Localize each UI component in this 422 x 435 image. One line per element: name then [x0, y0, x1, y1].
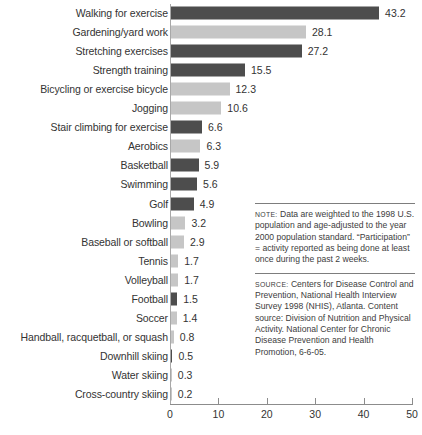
category-label: Bicycling or exercise bicycle	[40, 83, 168, 95]
source-divider	[255, 273, 415, 274]
category-label: Basketball	[121, 159, 168, 171]
bar	[170, 102, 221, 115]
horizontal-bar-chart: Walking for exercise43.2Gardening/yard w…	[0, 0, 422, 435]
bar	[170, 235, 184, 248]
bar-row: Strength training15.5	[0, 61, 422, 79]
category-label: Volleyball	[125, 274, 168, 286]
bar-value-label: 43.2	[385, 7, 405, 19]
bar	[170, 45, 302, 58]
source-text: SOURCE: Centers for Disease Control and …	[255, 279, 415, 358]
source-body: Centers for Disease Control and Preventi…	[255, 279, 414, 357]
note-divider	[255, 203, 415, 204]
bar	[170, 64, 245, 77]
x-tick-label: 10	[213, 408, 225, 420]
bar-value-label: 28.1	[312, 26, 332, 38]
bar-row: Walking for exercise43.2	[0, 4, 422, 22]
bar	[170, 178, 197, 191]
category-label: Cross-country skiing	[75, 388, 168, 400]
x-tick-label: 0	[167, 408, 173, 420]
category-label: Walking for exercise	[76, 7, 168, 19]
bar	[170, 159, 199, 172]
bar-value-label: 4.9	[200, 198, 215, 210]
bar-value-label: 5.9	[205, 159, 220, 171]
category-label: Gardening/yard work	[72, 26, 168, 38]
bar-row: Stair climbing for exercise6.6	[0, 118, 422, 136]
x-tick	[267, 398, 268, 405]
note-body: Data are weighted to the 1998 U.S. popul…	[255, 209, 414, 264]
bar-value-label: 6.6	[208, 121, 223, 133]
note-text: NOTE: Data are weighted to the 1998 U.S.…	[255, 209, 415, 266]
bar-value-label: 1.4	[183, 312, 198, 324]
bar-value-label: 10.6	[227, 102, 247, 114]
bar	[170, 254, 178, 267]
category-label: Tennis	[138, 255, 168, 267]
bar	[170, 311, 177, 324]
bar-row: Aerobics6.3	[0, 137, 422, 155]
bar-row: Jogging10.6	[0, 99, 422, 117]
category-label: Aerobics	[128, 140, 168, 152]
bar-row: Swimming5.6	[0, 175, 422, 193]
bar-value-label: 0.8	[180, 331, 195, 343]
bar-value-label: 0.2	[178, 388, 193, 400]
x-axis-line	[170, 404, 412, 405]
bar	[170, 7, 379, 20]
bar-value-label: 12.3	[236, 83, 256, 95]
bar-row: Water skiing0.3	[0, 366, 422, 384]
category-label: Water skiing	[112, 369, 168, 381]
bar-row: Basketball5.9	[0, 156, 422, 174]
bar-row: Cross-country skiing0.2	[0, 385, 422, 403]
x-tick-label: 30	[309, 408, 321, 420]
category-label: Stair climbing for exercise	[50, 121, 168, 133]
x-tick	[412, 398, 413, 405]
bar-value-label: 2.9	[190, 236, 205, 248]
notes-panel: NOTE: Data are weighted to the 1998 U.S.…	[255, 203, 415, 365]
y-axis-line	[170, 4, 171, 404]
x-tick	[364, 398, 365, 405]
bar-value-label: 1.5	[183, 293, 198, 305]
bar	[170, 83, 230, 96]
category-label: Football	[131, 293, 168, 305]
category-label: Stretching exercises	[75, 45, 168, 57]
category-label: Swimming	[120, 178, 168, 190]
category-label: Strength training	[93, 64, 168, 76]
bar	[170, 140, 200, 153]
category-label: Downhill skiing	[100, 350, 168, 362]
category-label: Soccer	[136, 312, 168, 324]
bar-value-label: 15.5	[251, 64, 271, 76]
x-tick-label: 20	[261, 408, 273, 420]
bar-value-label: 0.5	[178, 350, 193, 362]
bar	[170, 216, 185, 229]
category-label: Bowling	[132, 217, 168, 229]
x-tick-label: 50	[406, 408, 418, 420]
bar-value-label: 27.2	[308, 45, 328, 57]
bar	[170, 292, 177, 305]
bar-value-label: 1.7	[184, 274, 199, 286]
category-label: Handball, racquetball, or squash	[21, 331, 168, 343]
note-lead: NOTE:	[255, 211, 278, 218]
bar	[170, 197, 194, 210]
bar-value-label: 3.2	[191, 217, 206, 229]
bar-value-label: 5.6	[203, 178, 218, 190]
bar-value-label: 1.7	[184, 255, 199, 267]
bar-row: Bicycling or exercise bicycle12.3	[0, 80, 422, 98]
x-tick	[315, 398, 316, 405]
source-lead: SOURCE:	[255, 281, 289, 288]
category-label: Golf	[149, 198, 168, 210]
x-tick	[218, 398, 219, 405]
category-label: Baseball or softball	[81, 236, 168, 248]
bar	[170, 121, 202, 134]
category-label: Jogging	[132, 102, 168, 114]
bar	[170, 273, 178, 286]
bar-value-label: 0.3	[178, 369, 193, 381]
x-tick-label: 40	[358, 408, 370, 420]
bar-row: Stretching exercises27.2	[0, 42, 422, 60]
bar-value-label: 6.3	[206, 140, 221, 152]
bar	[170, 26, 306, 39]
bar-row: Gardening/yard work28.1	[0, 23, 422, 41]
